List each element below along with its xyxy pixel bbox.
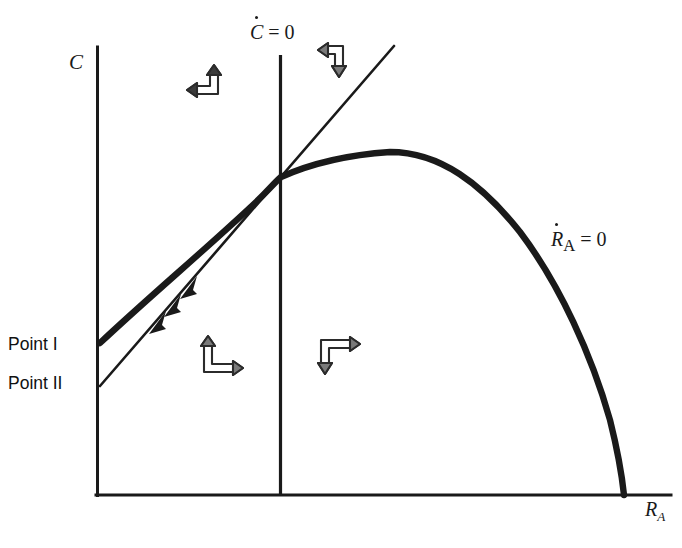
r-nullcline-curve xyxy=(100,152,624,495)
c-dot-variable: C xyxy=(250,22,263,42)
phase-plane-figure: C RA C = 0 RA = 0 Point I Point II xyxy=(0,0,682,548)
vector-arrow-up-left xyxy=(187,65,221,97)
y-axis-label: C xyxy=(69,52,83,73)
vector-arrow-right-down xyxy=(318,337,360,374)
vector-arrow-up-right xyxy=(201,336,243,375)
r-dot-variable: R xyxy=(551,229,563,249)
c-nullcline-variable: C xyxy=(250,21,263,43)
trajectory-line xyxy=(100,46,394,386)
vector-arrow-left-down xyxy=(318,43,346,77)
point-i-label: Point I xyxy=(8,336,58,354)
point-ii-label: Point II xyxy=(8,375,62,393)
r-nullcline-equals: = 0 xyxy=(575,228,606,250)
r-nullcline-label: RA = 0 xyxy=(551,229,607,255)
c-nullcline-label: C = 0 xyxy=(250,22,295,42)
r-nullcline-variable: R xyxy=(551,228,563,250)
x-axis-label: RA xyxy=(645,499,665,523)
phase-plane-plot xyxy=(0,0,682,548)
c-nullcline-equals: = 0 xyxy=(263,21,294,43)
x-axis-label-base: R xyxy=(645,498,657,520)
x-axis-label-subscript: A xyxy=(657,509,665,524)
trajectory-arrowheads xyxy=(149,276,197,334)
r-nullcline-subscript: A xyxy=(563,236,575,255)
